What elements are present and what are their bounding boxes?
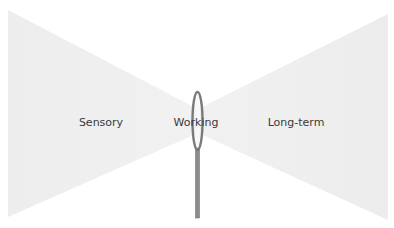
sensory-funnel [8,10,196,217]
label-long-term: Long-term [268,117,325,128]
memory-funnel-diagram [0,0,394,228]
label-working: Working [174,117,219,128]
label-sensory: Sensory [79,117,123,128]
needle-shaft [196,148,200,218]
